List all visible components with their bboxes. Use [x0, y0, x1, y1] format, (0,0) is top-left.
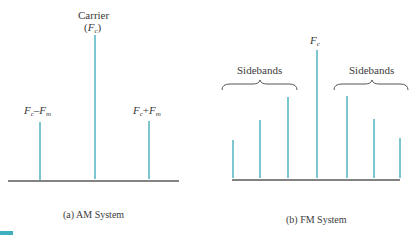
accent-mark	[0, 231, 13, 235]
left-sideband-brace	[222, 80, 297, 90]
am-carrier-symbol: (Fc)	[84, 21, 101, 35]
fm-carrier-label: Fc	[310, 34, 320, 48]
fm-sidebands-left-label: Sidebands	[237, 64, 282, 76]
am-upper-sideband-label: Fc+Fm	[133, 104, 161, 118]
am-caption: (a) AM System	[63, 209, 124, 220]
am-lower-sideband-label: Fc–Fm	[24, 104, 51, 118]
fm-caption: (b) FM System	[286, 214, 347, 225]
fm-sidebands-right-label: Sidebands	[349, 64, 394, 76]
right-sideband-brace	[334, 80, 408, 90]
am-carrier-label: Carrier	[78, 9, 109, 21]
